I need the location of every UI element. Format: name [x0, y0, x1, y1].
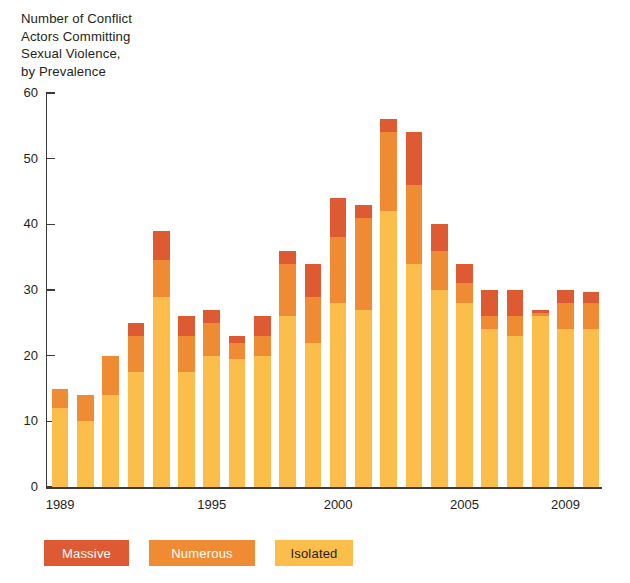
x-axis-tick-label: 1995	[182, 497, 242, 512]
x-axis-tick-label: 2000	[308, 497, 368, 512]
bar-segment-isolated	[102, 395, 119, 487]
bar-2009[interactable]	[557, 290, 574, 487]
bar-segment-isolated	[52, 408, 69, 487]
y-axis-tick-label: 20	[4, 348, 38, 363]
bar-segment-numerous	[52, 389, 69, 409]
x-axis-tick-label: 2009	[536, 497, 596, 512]
bar-segment-isolated	[254, 356, 271, 487]
bar-segment-isolated	[532, 316, 549, 487]
bar-segment-massive	[380, 119, 397, 132]
bar-segment-numerous	[431, 251, 448, 290]
bar-1994[interactable]	[178, 316, 195, 487]
legend-item-massive[interactable]: Massive	[44, 540, 129, 566]
bar-segment-isolated	[77, 421, 94, 487]
bar-1995[interactable]	[203, 310, 220, 487]
y-axis-tick-label: 0	[4, 479, 38, 494]
bar-1991[interactable]	[102, 356, 119, 487]
bar-segment-numerous	[279, 264, 296, 317]
bar-segment-massive	[305, 264, 322, 297]
bar-segment-isolated	[203, 356, 220, 487]
bar-1997[interactable]	[254, 316, 271, 487]
bar-segment-massive	[254, 316, 271, 336]
bar-2007[interactable]	[507, 290, 524, 487]
bar-segment-isolated	[229, 359, 246, 487]
bar-segment-isolated	[305, 343, 322, 487]
bar-1989[interactable]	[52, 389, 69, 488]
x-axis-tick-label: 1989	[30, 497, 90, 512]
bar-segment-numerous	[203, 323, 220, 356]
bar-segment-massive	[507, 290, 524, 316]
bar-2004[interactable]	[431, 224, 448, 487]
bar-segment-massive	[583, 292, 600, 303]
bar-segment-numerous	[330, 237, 347, 303]
bar-segment-numerous	[229, 343, 246, 359]
bar-segment-isolated	[456, 303, 473, 487]
bar-segment-numerous	[583, 303, 600, 329]
bar-segment-massive	[178, 316, 195, 336]
bar-segment-numerous	[380, 132, 397, 211]
bar-segment-isolated	[583, 329, 600, 487]
bar-segment-numerous	[254, 336, 271, 356]
bar-segment-numerous	[305, 297, 322, 343]
bar-segment-massive	[128, 323, 145, 336]
y-axis-tick-label: 30	[4, 282, 38, 297]
plot-area	[46, 93, 602, 487]
bar-segment-isolated	[406, 264, 423, 487]
bar-segment-numerous	[355, 218, 372, 310]
bar-2005[interactable]	[456, 264, 473, 487]
bar-2001[interactable]	[355, 205, 372, 487]
bar-segment-massive	[431, 224, 448, 250]
bar-2000[interactable]	[330, 198, 347, 487]
bar-1990[interactable]	[77, 395, 94, 487]
bar-2010[interactable]	[583, 292, 600, 487]
bar-segment-isolated	[481, 329, 498, 487]
x-axis-line	[46, 487, 602, 489]
bar-2002[interactable]	[380, 119, 397, 487]
bar-segment-massive	[355, 205, 372, 218]
bar-segment-numerous	[456, 283, 473, 303]
bar-segment-isolated	[355, 310, 372, 487]
chart-legend: MassiveNumerousIsolated	[44, 540, 353, 566]
bar-segment-numerous	[557, 303, 574, 329]
y-axis-tick-label: 50	[4, 151, 38, 166]
bar-segment-numerous	[128, 336, 145, 372]
bar-segment-isolated	[178, 372, 195, 487]
bar-segment-numerous	[102, 356, 119, 395]
bar-segment-numerous	[406, 185, 423, 264]
bar-segment-isolated	[431, 290, 448, 487]
bar-segment-numerous	[507, 316, 524, 336]
bar-segment-massive	[153, 231, 170, 261]
bar-segment-isolated	[128, 372, 145, 487]
bar-segment-isolated	[380, 211, 397, 487]
y-axis-tick-label: 60	[4, 85, 38, 100]
bar-segment-isolated	[557, 329, 574, 487]
bar-segment-isolated	[279, 316, 296, 487]
legend-item-isolated[interactable]: Isolated	[275, 540, 353, 566]
bar-segment-numerous	[77, 395, 94, 421]
bar-2003[interactable]	[406, 132, 423, 487]
bar-1996[interactable]	[229, 336, 246, 487]
bar-segment-massive	[456, 264, 473, 284]
bar-1992[interactable]	[128, 323, 145, 487]
bar-1999[interactable]	[305, 264, 322, 487]
y-axis-tick-label: 10	[4, 413, 38, 428]
bar-segment-massive	[406, 132, 423, 185]
bar-segment-massive	[557, 290, 574, 303]
bar-1998[interactable]	[279, 251, 296, 487]
y-axis-tick-label: 40	[4, 216, 38, 231]
bar-2008[interactable]	[532, 310, 549, 487]
legend-item-numerous[interactable]: Numerous	[149, 540, 255, 566]
bar-segment-massive	[203, 310, 220, 323]
bar-segment-numerous	[178, 336, 195, 372]
bar-segment-numerous	[481, 316, 498, 329]
bar-segment-numerous	[153, 260, 170, 296]
bar-2006[interactable]	[481, 290, 498, 487]
bar-segment-isolated	[507, 336, 524, 487]
x-axis-tick-label: 2005	[435, 497, 495, 512]
bar-segment-massive	[279, 251, 296, 264]
bar-1993[interactable]	[153, 231, 170, 487]
page-title: Number of Conflict Actors Committing Sex…	[21, 10, 132, 80]
bar-segment-massive	[330, 198, 347, 237]
bar-segment-isolated	[330, 303, 347, 487]
bar-segment-massive	[481, 290, 498, 316]
